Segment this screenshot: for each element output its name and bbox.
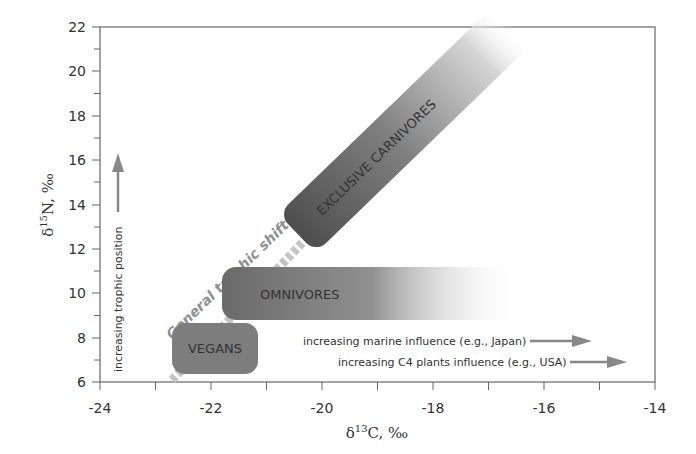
vegans-label: VEGANS [188,341,242,356]
c4-influence-label: increasing C4 plants influence (e.g., US… [338,356,567,369]
omnivores-label: OMNIVORES [260,287,339,302]
y-axis-tick-labels: 22 20 18 16 14 12 10 8 6 [68,19,86,390]
y-tick-label: 14 [68,197,86,213]
isotope-chart: 22 20 18 16 14 12 10 8 6 -24 -22 -20 -18… [0,0,696,454]
marine-influence-label: increasing marine influence (e.g., Japan… [303,335,526,348]
y-tick-label: 20 [68,63,86,79]
x-tick-label: -16 [533,400,556,416]
x-tick-label: -14 [644,400,667,416]
trophic-position-label: increasing trophic position [112,226,125,372]
x-axis-label: δ13C, ‰ [346,423,408,442]
arrow-right-icon [572,335,592,347]
y-tick-label: 6 [77,374,86,390]
x-axis-ticks [100,382,655,390]
y-tick-label: 12 [68,241,86,257]
trophic-position-arrow [112,153,124,212]
x-tick-label: -20 [311,400,334,416]
x-axis-tick-labels: -24 -22 -20 -18 -16 -14 [89,400,667,416]
y-axis-label: δ15N, ‰ [38,173,57,237]
region-vegans: VEGANS [172,323,258,374]
region-omnivores: OMNIVORES [222,267,522,320]
x-tick-label: -24 [89,400,112,416]
carnivores-label: EXCLUSIVE CARNIVORES [314,97,439,219]
arrow-up-icon [112,153,124,172]
marine-influence-arrow [530,335,592,347]
arrow-right-icon [607,356,627,368]
x-tick-label: -22 [200,400,223,416]
y-axis-ticks [92,27,100,382]
y-tick-label: 18 [68,108,86,124]
y-tick-label: 16 [68,152,86,168]
c4-influence-arrow [570,356,627,368]
region-carnivores: EXCLUSIVE CARNIVORES [278,6,531,253]
x-tick-label: -18 [422,400,445,416]
y-tick-label: 8 [77,330,86,346]
y-tick-label: 22 [68,19,86,35]
y-tick-label: 10 [68,285,86,301]
